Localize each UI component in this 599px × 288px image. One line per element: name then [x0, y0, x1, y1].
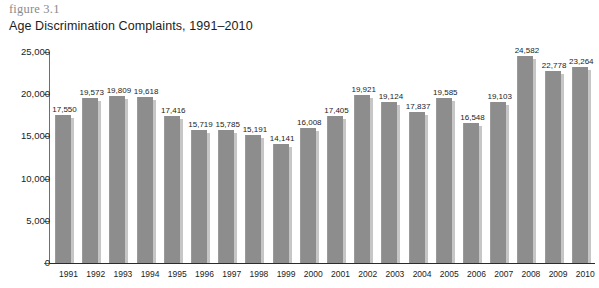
x-axis-tick-labels: 1991199219931994199519961997199819992000… [49, 0, 595, 288]
y-axis-tick-label: 25,000 [8, 46, 50, 57]
y-axis-tick-label: 15,000 [8, 130, 50, 141]
y-axis-tick-label: 0 [8, 257, 50, 268]
y-axis-tick-label: 5,000 [8, 215, 50, 226]
y-axis-tick-label: 20,000 [8, 88, 50, 99]
x-axis-tick-label: 2010 [568, 269, 599, 279]
y-axis-tick-label: 10,000 [8, 173, 50, 184]
figure-container: figure 3.1 Age Discrimination Complaints… [0, 0, 599, 288]
